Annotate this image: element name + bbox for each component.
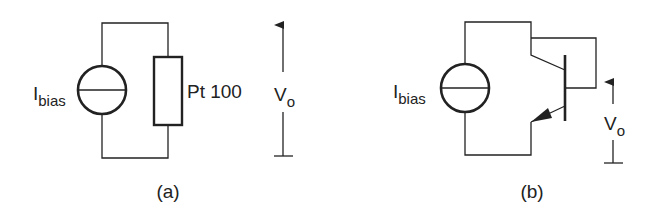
wire-bottom-b bbox=[465, 112, 531, 155]
wire-collector-base-b bbox=[531, 38, 596, 88]
resistor-label: Pt 100 bbox=[187, 81, 242, 102]
caption-a: (a) bbox=[156, 181, 179, 202]
resistor-icon bbox=[154, 57, 182, 125]
source-label-a: Ibias bbox=[33, 83, 66, 109]
caption-b: (b) bbox=[520, 181, 543, 202]
source-label-b: Ibias bbox=[393, 81, 426, 107]
output-voltage-label-b: Vo bbox=[604, 113, 625, 139]
output-voltage-label-a: Vo bbox=[274, 84, 295, 110]
npn-transistor-icon bbox=[531, 55, 565, 122]
wire-bottom-a bbox=[102, 114, 168, 158]
circuit-diagram: Ibias Pt 100 Vo (a) Ibias bbox=[0, 0, 655, 212]
current-source-icon bbox=[441, 64, 489, 112]
panel-a: Ibias Pt 100 Vo (a) bbox=[33, 23, 295, 202]
panel-b: Ibias Vo (b) bbox=[393, 22, 625, 202]
wire-top-b bbox=[465, 22, 565, 70]
current-source-icon bbox=[78, 66, 126, 114]
wire-top-a bbox=[102, 23, 168, 66]
